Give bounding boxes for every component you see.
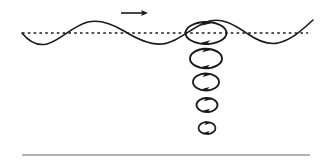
orbit-2 (190, 48, 222, 70)
orbit-2-ellipse (190, 49, 222, 69)
orbit-3 (193, 72, 219, 91)
orbit-4 (197, 97, 218, 113)
diagram-canvas (0, 0, 324, 160)
wave-orbital-motion-diagram (0, 0, 324, 160)
orbit-5 (199, 121, 216, 135)
orbit-3-ellipse (193, 74, 219, 91)
wave-direction-arrow (121, 10, 148, 16)
